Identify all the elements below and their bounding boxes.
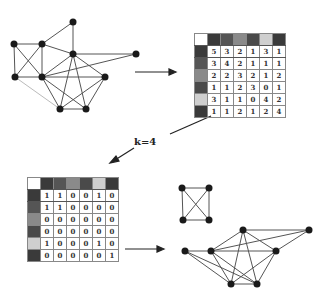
row-color-cell	[195, 82, 208, 94]
matrix-cell: 0	[41, 214, 54, 226]
k-label: k=4	[134, 136, 156, 147]
matrix-cell: 0	[106, 202, 119, 214]
matrix-cell: 0	[247, 94, 260, 106]
header-color-cell	[208, 34, 221, 46]
matrix-cell: 1	[54, 190, 67, 202]
row-color-cell	[195, 58, 208, 70]
header-color-cell	[28, 178, 41, 190]
matrix-cell: 0	[54, 226, 67, 238]
matrix-cell: 2	[247, 70, 260, 82]
matrix-cell: 4	[260, 94, 273, 106]
matrix-cell: 4	[273, 106, 286, 118]
matrix-cell: 3	[208, 58, 221, 70]
header-color-cell	[67, 178, 80, 190]
result-graphs	[182, 188, 309, 284]
matrix-cell: 0	[67, 214, 80, 226]
row-color-cell	[28, 214, 41, 226]
matrix-cell: 0	[93, 250, 106, 262]
matrix-cell: 4	[221, 58, 234, 70]
matrix-cell: 0	[80, 214, 93, 226]
matrix-cell: 1	[221, 106, 234, 118]
header-color-cell	[195, 34, 208, 46]
matrix-cell: 0	[80, 238, 93, 250]
matrix-cell: 1	[41, 202, 54, 214]
original-graph	[14, 22, 136, 109]
matrix-cell: 2	[260, 106, 273, 118]
matrix-cell: 1	[247, 106, 260, 118]
matrix-cell: 0	[67, 190, 80, 202]
matrix-cell: 0	[67, 238, 80, 250]
matrix-cell: 1	[273, 82, 286, 94]
matrix-cell: 2	[273, 70, 286, 82]
matrix-cell: 1	[221, 94, 234, 106]
row-color-cell	[195, 106, 208, 118]
row-color-cell	[195, 70, 208, 82]
header-color-cell	[273, 34, 286, 46]
header-color-cell	[260, 34, 273, 46]
matrix-cell: 0	[80, 250, 93, 262]
header-color-cell	[41, 178, 54, 190]
row-color-cell	[28, 238, 41, 250]
matrix-cell: 0	[93, 202, 106, 214]
matrix-cell: 1	[247, 46, 260, 58]
matrix-cell: 2	[234, 58, 247, 70]
matrix-cell: 2	[234, 106, 247, 118]
matrix-cell: 1	[273, 46, 286, 58]
matrix-cell: 0	[106, 214, 119, 226]
matrix-cell: 0	[80, 190, 93, 202]
matrix-cell: 0	[106, 190, 119, 202]
matrix-cell: 3	[221, 46, 234, 58]
matrix-cell: 1	[41, 238, 54, 250]
matrix-cell: 3	[247, 82, 260, 94]
row-color-cell	[28, 202, 41, 214]
matrix-cell: 2	[234, 46, 247, 58]
matrix-cell: 2	[234, 82, 247, 94]
header-color-cell	[247, 34, 260, 46]
matrix-cell: 3	[234, 70, 247, 82]
matrix-cell: 0	[41, 226, 54, 238]
matrix-cell: 1	[273, 58, 286, 70]
header-color-cell	[80, 178, 93, 190]
matrix-cell: 3	[260, 46, 273, 58]
matrix-cell: 0	[54, 238, 67, 250]
matrix-cell: 1	[260, 70, 273, 82]
similarity-matrix: 532131342111223212112301311042112124	[194, 33, 286, 118]
matrix-cell: 0	[106, 226, 119, 238]
matrix-cell: 0	[67, 250, 80, 262]
matrix-cell: 5	[208, 46, 221, 58]
matrix-cell: 0	[80, 226, 93, 238]
matrix-cell: 1	[208, 82, 221, 94]
matrix-cell: 0	[106, 238, 119, 250]
row-color-cell	[28, 190, 41, 202]
matrix-cell: 0	[93, 214, 106, 226]
matrix-cell: 1	[221, 82, 234, 94]
result-graph-nodes	[179, 185, 313, 288]
matrix-cell: 1	[93, 238, 106, 250]
matrix-cell: 2	[208, 70, 221, 82]
matrix-cell: 1	[54, 202, 67, 214]
matrix-cell: 2	[221, 70, 234, 82]
matrix-cell: 0	[41, 250, 54, 262]
matrix-cell: 0	[67, 202, 80, 214]
matrix-cell: 0	[54, 250, 67, 262]
row-color-cell	[195, 94, 208, 106]
matrix-cell: 1	[247, 58, 260, 70]
header-color-cell	[234, 34, 247, 46]
matrix-cell: 1	[208, 106, 221, 118]
row-color-cell	[28, 226, 41, 238]
matrix-cell: 2	[273, 94, 286, 106]
matrix-cell: 0	[67, 226, 80, 238]
header-color-cell	[54, 178, 67, 190]
thresholded-matrix: 110010110000000000000000100010000001	[27, 177, 119, 262]
matrix-cell: 3	[208, 94, 221, 106]
matrix-cell: 1	[260, 58, 273, 70]
header-color-cell	[221, 34, 234, 46]
matrix-cell: 1	[93, 190, 106, 202]
matrix-cell: 0	[260, 82, 273, 94]
matrix-cell: 0	[80, 202, 93, 214]
matrix-cell: 0	[54, 214, 67, 226]
matrix-cell: 0	[93, 226, 106, 238]
matrix-cell: 1	[41, 190, 54, 202]
header-color-cell	[93, 178, 106, 190]
row-color-cell	[28, 250, 41, 262]
